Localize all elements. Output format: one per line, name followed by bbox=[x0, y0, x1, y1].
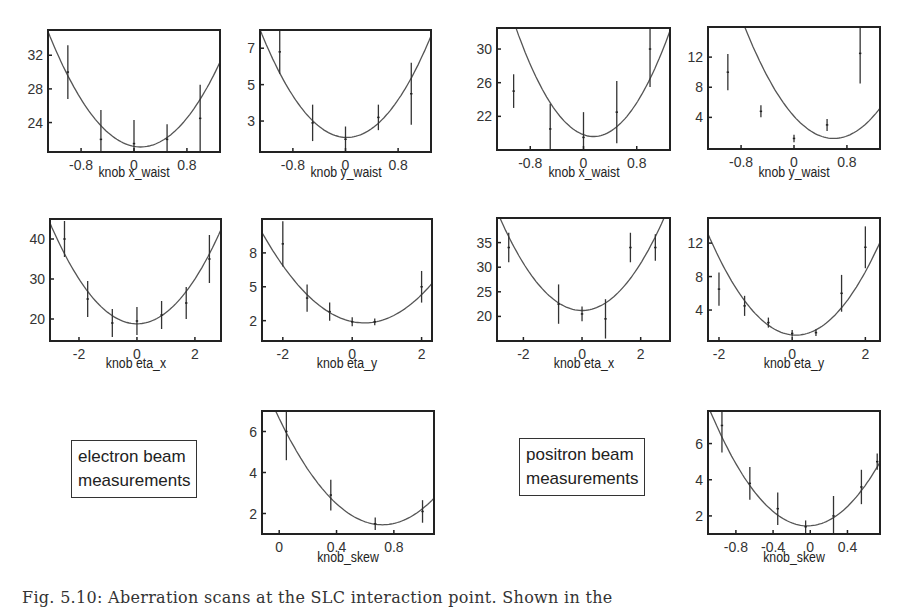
legend-electron-line2: measurements bbox=[78, 469, 190, 493]
x-axis-label: knob_skew bbox=[741, 549, 847, 565]
legend-positron-beam: positron beam measurements bbox=[519, 438, 645, 496]
figure-caption: Fig. 5.10: Aberration scans at the SLC i… bbox=[22, 588, 613, 607]
fit-curve bbox=[708, 406, 880, 526]
legend-positron-line1: positron beam bbox=[526, 443, 638, 467]
y-tick-label: 2 bbox=[695, 508, 703, 524]
legend-electron-line1: electron beam bbox=[78, 445, 190, 469]
plot-frame bbox=[708, 411, 880, 534]
y-tick-label: 6 bbox=[695, 436, 703, 452]
y-tick-label: 4 bbox=[695, 472, 703, 488]
legend-electron-beam: electron beam measurements bbox=[71, 440, 197, 498]
legend-positron-line2: measurements bbox=[526, 467, 638, 491]
